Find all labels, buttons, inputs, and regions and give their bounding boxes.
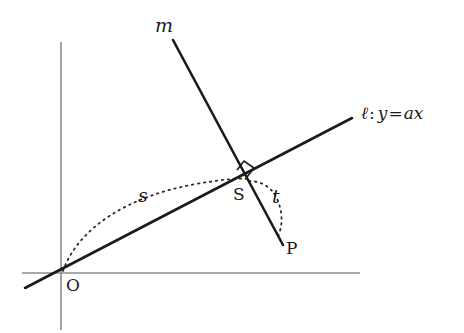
arc-s-curve <box>63 179 246 271</box>
point-p-label: P <box>286 240 297 257</box>
line-l-label: ℓ:y=ax <box>361 105 423 122</box>
line-l-coefficient: a <box>404 103 414 123</box>
geometry-figure: m ℓ:y=ax s S t P O <box>0 0 464 333</box>
line-m-label: m <box>155 16 173 35</box>
line-m <box>173 40 283 245</box>
arc-t-label: t <box>272 187 280 206</box>
point-o-label: O <box>66 277 80 294</box>
line-l-equals-sign: = <box>387 103 403 123</box>
line-l-y-variable: y <box>378 103 388 123</box>
point-s-label: S <box>233 186 245 203</box>
line-l-x-variable: x <box>414 103 424 123</box>
line-l-colon: : <box>368 103 378 123</box>
arc-s-label: s <box>138 186 148 205</box>
line-l <box>25 118 352 288</box>
